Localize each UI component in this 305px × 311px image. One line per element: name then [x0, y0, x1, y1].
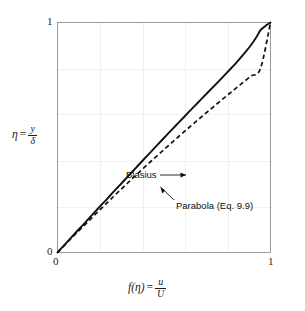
leader-line-blasius	[160, 173, 186, 178]
x-axis-label-function: f(η)	[128, 282, 145, 294]
y-axis-tick-max: 1	[47, 16, 53, 27]
y-axis-label-denominator: δ	[28, 136, 37, 147]
y-axis-label-equals: =	[20, 129, 27, 141]
y-axis-label: η = y δ	[12, 124, 37, 146]
annotation-blasius: Blasius	[126, 170, 157, 180]
x-axis-tick-max: 1	[268, 256, 274, 267]
curve-blasius	[58, 23, 271, 253]
leader-line-parabola	[161, 187, 175, 200]
x-axis-label-denominator: U	[155, 289, 166, 300]
plot-area	[0, 0, 305, 311]
x-axis-label-fraction: u U	[155, 277, 166, 299]
y-axis-label-fraction: y δ	[28, 124, 37, 146]
y-axis-tick-min: 0	[47, 246, 53, 257]
velocity-profile-figure: η = y δ f(η) = u U 1 0 0 1 Blasius Parab…	[0, 0, 305, 311]
y-axis-label-numerator: y	[28, 124, 36, 135]
annotation-parabola: Parabola (Eq. 9.9)	[176, 201, 253, 211]
y-axis-label-variable: η	[12, 129, 18, 141]
x-axis-tick-min: 0	[53, 256, 59, 267]
x-axis-label: f(η) = u U	[128, 277, 166, 299]
x-axis-label-numerator: u	[156, 277, 165, 288]
x-axis-label-equals: =	[147, 282, 154, 294]
